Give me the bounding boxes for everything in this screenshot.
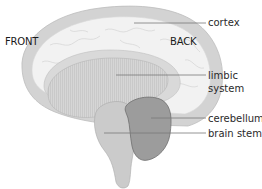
front-label: FRONT xyxy=(5,36,38,47)
brain-diagram xyxy=(0,0,262,189)
limbic-label-line2: system xyxy=(208,83,244,94)
back-label: BACK xyxy=(170,36,196,47)
cortex-label: cortex xyxy=(208,17,240,28)
brain-stem-label: brain stem xyxy=(208,128,262,139)
limbic-label-line1: limbic xyxy=(208,70,238,81)
cerebellum-label: cerebellum xyxy=(208,113,262,124)
